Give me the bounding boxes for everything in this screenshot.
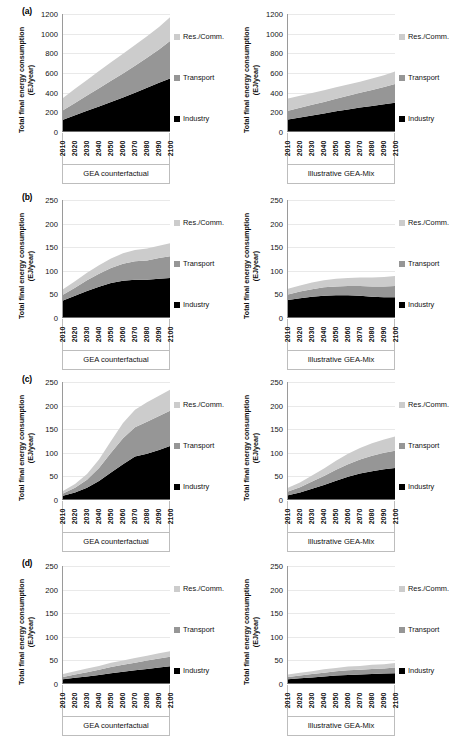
legend: Res./Comm.TransportIndustry [399,14,456,134]
legend-item-transport[interactable]: Transport [399,441,439,450]
x-tick-label-text: 2070 [132,693,139,709]
legend-item-transport[interactable]: Transport [174,259,214,268]
plot-area-b-left [62,200,170,318]
x-tick-label: 2090 [154,502,164,532]
x-tick-label-text: 2030 [84,327,91,343]
legend-item-transport[interactable]: Transport [174,625,214,634]
y-tick-label: 50 [275,290,283,299]
legend-item-transport[interactable]: Transport [399,73,439,82]
x-tick-label: 2030 [82,134,92,164]
x-tick-label: 2040 [319,134,329,164]
x-tick-label-text: 2050 [333,327,340,343]
y-tick-label: 150 [45,425,58,434]
x-axis-title: Illustrative GEA-Mix [287,164,395,184]
x-tick-label: 2070 [355,320,365,350]
x-tick-label: 2040 [94,502,104,532]
y-tick-label: 150 [270,609,283,618]
legend-item-res-comm[interactable]: Res./Comm. [399,400,449,409]
x-tick-label: 2070 [130,320,140,350]
x-tick-label: 2040 [94,686,104,716]
legend-item-industry[interactable]: Industry [174,666,209,675]
legend: Res./Comm.TransportIndustry [174,14,234,134]
transport-swatch [399,627,405,633]
x-tick-label-text: 2060 [120,509,127,525]
x-tick-label: 2010 [283,686,293,716]
legend-item-transport[interactable]: Transport [174,73,214,82]
x-tick-label: 2070 [130,502,140,532]
y-tick-label: 100 [45,266,58,275]
legend-item-res-comm[interactable]: Res./Comm. [174,400,224,409]
y-tick-label: 200 [270,219,283,228]
x-tick-label: 2030 [307,686,317,716]
legend-label: Industry [183,300,209,309]
legend-item-res-comm[interactable]: Res./Comm. [399,32,449,41]
x-tick-label-text: 2020 [297,509,304,525]
x-tick-label-text: 2050 [108,693,115,709]
transport-swatch [399,75,405,81]
x-axis-title: GEA counterfactual [62,350,170,370]
legend-item-res-comm[interactable]: Res./Comm. [399,218,449,227]
legend-item-industry[interactable]: Industry [174,482,209,491]
legend-label: Res./Comm. [408,400,449,409]
x-tick-label-text: 2020 [297,141,304,157]
res-comm-swatch [399,586,405,592]
y-axis-tick-labels: 020040060080010001200 [257,14,285,132]
chart-a-left: Total final energy consumption(EJ/year)0… [18,0,223,186]
legend-label: Res./Comm. [183,218,224,227]
stacked-area-paths [63,200,170,318]
y-tick-label: 50 [275,472,283,481]
plot-area-c-right [287,382,395,500]
legend-label: Industry [408,114,434,123]
stacked-area-paths [63,382,170,500]
x-tick-label: 2010 [58,134,68,164]
x-tick-label: 2100 [391,320,401,350]
x-tick-label-text: 2080 [369,327,376,343]
x-tick-label: 2040 [94,134,104,164]
y-tick-label: 1200 [41,10,58,19]
legend-item-industry[interactable]: Industry [399,666,434,675]
x-axis-tick-labels: 2010202020302040205020602070208020902100 [62,319,170,351]
y-tick-label: 200 [270,401,283,410]
legend-item-res-comm[interactable]: Res./Comm. [174,218,224,227]
x-tick-label-text: 2070 [132,327,139,343]
x-tick-label: 2080 [142,320,152,350]
x-tick-label: 2100 [166,502,176,532]
legend-item-res-comm[interactable]: Res./Comm. [399,584,449,593]
stacked-area-paths [288,382,395,500]
x-tick-label-text: 2070 [357,509,364,525]
x-tick-label-text: 2100 [168,693,175,709]
x-tick-label-text: 2090 [381,327,388,343]
legend-item-industry[interactable]: Industry [174,300,209,309]
x-axis-title: Illustrative GEA-Mix [287,532,395,552]
x-tick-label: 2090 [379,502,389,532]
x-tick-label: 2030 [82,320,92,350]
x-tick-label: 2080 [367,686,377,716]
x-tick-label: 2070 [355,502,365,532]
x-axis-tick-labels: 2010202020302040205020602070208020902100 [287,319,395,351]
legend-item-res-comm[interactable]: Res./Comm. [174,584,224,593]
legend-item-industry[interactable]: Industry [399,114,434,123]
x-tick-label-text: 2070 [132,141,139,157]
x-tick-label-text: 2030 [309,693,316,709]
x-tick-label-text: 2100 [393,327,400,343]
legend-item-industry[interactable]: Industry [399,300,434,309]
y-tick-label: 250 [45,562,58,571]
legend-item-transport[interactable]: Transport [399,625,439,634]
legend-label: Transport [408,73,439,82]
x-tick-label-text: 2070 [357,693,364,709]
legend-item-res-comm[interactable]: Res./Comm. [174,32,224,41]
x-tick-label: 2090 [379,320,389,350]
legend: Res./Comm.TransportIndustry [399,566,456,686]
x-tick-label-text: 2040 [96,141,103,157]
x-axis-tick-labels: 2010202020302040205020602070208020902100 [287,133,395,165]
x-tick-label-text: 2050 [108,509,115,525]
chart-d-right: Total final energy consumption(EJ/year)0… [243,552,448,738]
industry-area [288,295,395,318]
x-tick-label: 2050 [106,320,116,350]
legend-item-industry[interactable]: Industry [174,114,209,123]
legend-item-industry[interactable]: Industry [399,482,434,491]
legend-item-transport[interactable]: Transport [399,259,439,268]
legend-item-transport[interactable]: Transport [174,441,214,450]
x-tick-label-text: 2060 [120,327,127,343]
y-tick-label: 100 [45,448,58,457]
